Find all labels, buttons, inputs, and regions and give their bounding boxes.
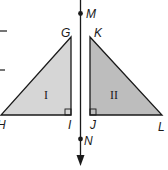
label-L: L [158,120,165,134]
label-J: J [89,118,97,132]
arrow-down-icon [77,155,85,166]
label-I: I [68,118,72,132]
point-M [78,11,83,16]
triangle-I [1,37,71,115]
label-G: G [61,26,70,40]
label-K: K [94,26,103,40]
triangle-II [90,37,162,115]
reflection-diagram: M N G H I K J L I II [0,0,168,170]
label-M: M [86,7,96,21]
label-N: N [84,134,93,148]
triangle-I-numeral: I [44,88,48,102]
label-H: H [0,118,6,132]
triangle-II-numeral: II [110,88,118,102]
point-N [78,137,83,142]
